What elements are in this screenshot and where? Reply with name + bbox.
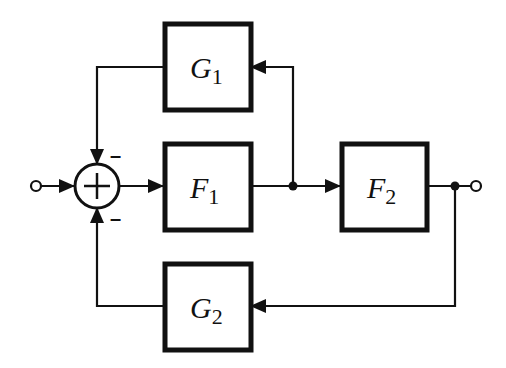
block-f2: F2 [342, 144, 427, 230]
block-diagram: – – F1 G1 F2 G2 [0, 0, 506, 368]
block-f1: F1 [165, 144, 251, 230]
branch-to-g1-wire [251, 67, 293, 186]
output-terminal [471, 181, 481, 191]
block-g2: G2 [165, 264, 251, 350]
g2-to-sum-wire [97, 208, 163, 306]
top-minus-sign: – [110, 144, 121, 166]
bottom-minus-sign: – [110, 207, 121, 229]
block-g1: G1 [165, 24, 251, 110]
input-terminal [31, 181, 41, 191]
g1-to-sum-wire [97, 67, 163, 164]
summing-junction [75, 164, 119, 208]
